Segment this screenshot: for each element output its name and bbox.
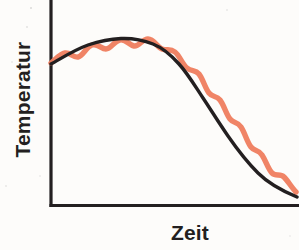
smooth-temperature-curve: [51, 38, 297, 197]
temperature-time-plot: [0, 0, 299, 250]
x-axis-label: Zeit: [130, 220, 250, 246]
noisy-measurement-curve: [51, 39, 296, 192]
y-axis-label: Temperatur: [8, 0, 38, 199]
figure-canvas: Temperatur Zeit: [0, 0, 299, 250]
